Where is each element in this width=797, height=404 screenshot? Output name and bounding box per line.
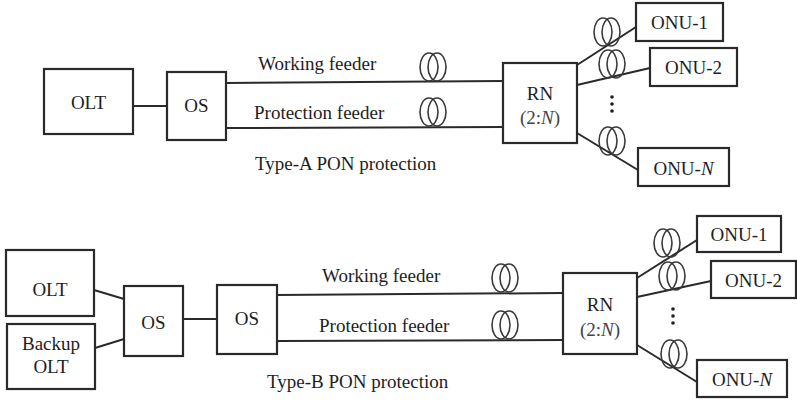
backup-olt-label-line1: Backup: [22, 333, 80, 354]
pon-protection-diagram: OLT OS Working feeder Protection feeder …: [0, 0, 797, 404]
fiber-coil-icon: [492, 264, 518, 292]
fiber-coil-icon: [594, 18, 620, 46]
type-b-onu-n-box: ONU-N: [697, 360, 787, 397]
type-a-ellipsis-icon: [610, 95, 614, 113]
type-a-onu-n-box: ONU-N: [638, 148, 729, 186]
type-a-os-label: OS: [184, 95, 208, 116]
backup-olt-label-line2: OLT: [33, 356, 69, 377]
svg-text:ONU-2: ONU-2: [665, 57, 722, 78]
type-b-protection-feeder-label: Protection feeder: [319, 315, 450, 336]
type-b-diagram: OLT Backup OLT OS OS Working feeder Prot…: [6, 216, 796, 397]
type-b-os1-box: OS: [124, 286, 183, 356]
type-a-caption: Type-A PON protection: [255, 153, 437, 174]
type-a-olt-label: OLT: [71, 92, 107, 113]
backup-olt-os-link: [95, 339, 124, 348]
type-a-rn-ratio: (2:N): [520, 107, 560, 129]
type-a-onu-1-box: ONU-1: [636, 3, 723, 41]
type-b-working-feeder-line: [277, 293, 563, 295]
type-b-protection-feeder-line: [277, 340, 563, 341]
type-b-onu-2-box: ONU-2: [711, 261, 796, 298]
type-b-rn-box: RN (2:N): [563, 273, 637, 354]
svg-text:ONU-1: ONU-1: [711, 224, 768, 245]
type-b-caption: Type-B PON protection: [267, 371, 449, 392]
type-b-backup-olt-box: Backup OLT: [7, 324, 95, 389]
fiber-coil-icon: [492, 311, 518, 339]
type-b-os2-box: OS: [217, 285, 277, 354]
type-a-os-box: OS: [167, 72, 226, 140]
type-b-olt-box: OLT: [6, 250, 94, 316]
type-a-diagram: OLT OS Working feeder Protection feeder …: [44, 3, 737, 186]
type-b-olt-label: OLT: [32, 279, 68, 300]
branch-onu-n: [637, 345, 697, 382]
svg-text:ONU-N: ONU-N: [712, 369, 774, 390]
type-a-protection-feeder-label: Protection feeder: [254, 102, 385, 123]
type-b-rn-ratio: (2:N): [580, 319, 620, 341]
svg-text:ONU-1: ONU-1: [651, 12, 708, 33]
fiber-coil-icon: [420, 53, 446, 81]
svg-text:ONU-2: ONU-2: [725, 270, 782, 291]
olt-os-link: [94, 290, 124, 299]
type-b-rn-label: RN: [587, 294, 614, 315]
type-a-rn-label: RN: [527, 83, 554, 104]
type-a-onu-2-box: ONU-2: [650, 48, 737, 86]
svg-text:ONU-N: ONU-N: [653, 158, 715, 179]
fiber-coil-icon: [661, 340, 687, 368]
type-a-protection-feeder-line: [226, 127, 503, 128]
fiber-coil-icon: [659, 262, 685, 290]
fiber-coil-icon: [599, 127, 625, 155]
type-a-rn-box: RN (2:N): [503, 63, 577, 143]
branch-onu-2: [577, 68, 650, 85]
fiber-coil-icon: [420, 98, 446, 126]
type-b-working-feeder-label: Working feeder: [322, 265, 441, 286]
type-a-working-feeder-label: Working feeder: [258, 53, 377, 74]
type-a-olt-box: OLT: [44, 69, 133, 134]
type-b-onu-1-box: ONU-1: [697, 216, 781, 252]
branch-onu-1: [577, 27, 636, 65]
type-b-ellipsis-icon: [671, 307, 675, 325]
type-a-working-feeder-line: [226, 81, 503, 83]
type-b-os1-label: OS: [141, 312, 165, 333]
type-b-os2-label: OS: [235, 308, 259, 329]
